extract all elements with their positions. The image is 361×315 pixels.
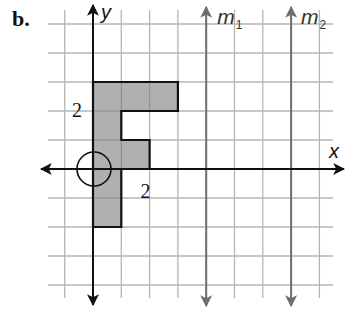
f-shape-fill	[93, 82, 178, 227]
x-tick-label-2: 2	[141, 181, 151, 201]
y-tick-label-2: 2	[72, 100, 82, 120]
y-axis-label: y	[101, 2, 111, 22]
reflection-lines	[206, 7, 291, 306]
line-m2-label: m2	[301, 6, 326, 31]
axes	[41, 5, 344, 305]
part-label: b.	[12, 8, 30, 30]
line-m1-label: m1	[217, 6, 242, 31]
coordinate-plane	[0, 0, 361, 315]
coordinate-diagram: b. y x 2 2 m1 m2	[0, 0, 361, 315]
x-axis-label: x	[329, 141, 339, 161]
